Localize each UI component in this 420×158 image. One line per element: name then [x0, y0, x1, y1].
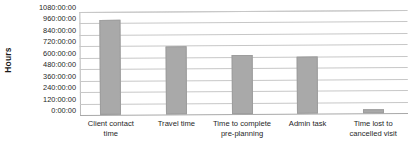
x-axis-category-labels: Client contact timeTravel timeTime to co…: [80, 119, 410, 158]
y-axis-title-text: Hours: [3, 47, 13, 73]
y-axis-tick-label: 720:00:00: [43, 38, 76, 46]
y-axis-title: Hours: [0, 0, 16, 120]
x-axis-category-label: Time lost to cancelled visit: [340, 119, 406, 138]
bar: [165, 47, 186, 115]
bars-group: [79, 10, 408, 115]
y-axis-tick-label: 360:00:00: [43, 73, 76, 81]
y-axis-tick-label: 840:00:00: [43, 27, 76, 35]
y-axis-tick-labels: 0:00:00120:00:00240:00:00360:00:00480:00…: [16, 8, 78, 119]
x-axis-category-label: Time to complete pre-planning: [211, 119, 273, 138]
y-axis-tick-label: 600:00:00: [43, 50, 76, 58]
bar: [100, 19, 122, 114]
y-axis-tick-label: 1080:00:00: [39, 4, 76, 12]
bar: [363, 109, 384, 113]
bar: [231, 55, 252, 114]
x-axis-category-label: Travel time: [148, 119, 204, 129]
plot-area: [79, 10, 408, 115]
x-axis-category-label: Client contact time: [81, 119, 141, 138]
y-axis-tick-label: 480:00:00: [43, 61, 76, 69]
y-axis-tick-label: 960:00:00: [43, 15, 76, 23]
y-axis-tick-label: 240:00:00: [43, 84, 76, 92]
y-axis-tick-label: 120:00:00: [43, 96, 76, 104]
bar-chart: Hours 0:00:00120:00:00240:00:00360:00:00…: [0, 0, 420, 158]
x-axis-category-label: Admin task: [279, 119, 337, 129]
bar: [297, 57, 318, 114]
y-axis-tick-label: 0:00:00: [51, 107, 76, 115]
